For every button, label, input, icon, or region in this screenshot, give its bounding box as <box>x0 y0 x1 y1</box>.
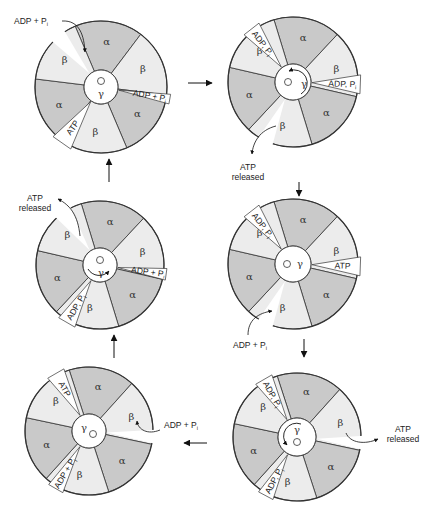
alpha-label: α <box>103 36 110 47</box>
alpha-label: α <box>119 455 126 466</box>
beta-label: β <box>337 417 343 428</box>
beta-label: β <box>53 395 59 406</box>
site-atp-label: ATP <box>334 260 351 271</box>
gamma-label: γ <box>297 258 303 269</box>
gamma-hub <box>72 414 106 448</box>
alpha-label: α <box>323 107 330 118</box>
gamma-hub <box>275 246 311 282</box>
adp-pi-entering-label: ADP + Pi <box>164 420 198 431</box>
alpha-label: α <box>300 32 307 43</box>
gamma-label: γ <box>294 424 300 435</box>
panel-2: αβαβαβADP, PiADP, PiγATPreleased <box>228 17 361 182</box>
alpha-label: α <box>250 445 257 456</box>
alpha-label: α <box>303 386 310 397</box>
gamma-shaft-icon <box>294 439 301 446</box>
alpha-label: α <box>323 289 330 300</box>
gamma-label: γ <box>81 422 87 433</box>
beta-label: β <box>87 302 93 313</box>
panel-4: αβαβαβADP, PiATPγADP + Pi <box>228 199 361 351</box>
gamma-label: γ <box>98 88 104 99</box>
adp-pi-entering-label: ADP + Pi <box>14 16 48 27</box>
alpha-label: α <box>56 99 63 110</box>
alpha-label: α <box>107 216 114 227</box>
gamma-shaft-icon <box>97 257 104 264</box>
atp-released-label: ATPreleased <box>232 162 265 182</box>
alpha-label: α <box>54 272 61 283</box>
beta-label: β <box>62 54 68 65</box>
alpha-label: α <box>327 461 334 472</box>
beta-label: β <box>77 469 83 480</box>
beta-label: β <box>140 63 146 74</box>
beta-label: β <box>280 302 286 313</box>
beta-label: β <box>128 411 134 422</box>
alpha-label: α <box>95 381 102 392</box>
gamma-shaft-icon <box>98 78 105 85</box>
gamma-shaft-icon <box>285 79 292 86</box>
beta-label: β <box>140 246 146 257</box>
beta-label: β <box>334 245 340 256</box>
panel-1: αβαβαβADP + PiATPγADP + Pi <box>14 16 171 153</box>
alpha-label: α <box>246 271 253 282</box>
alpha-label: α <box>134 108 141 119</box>
beta-label: β <box>93 126 99 137</box>
panel-3: αβαβαβADP + PiADP, PiγATPreleased <box>19 193 167 329</box>
alpha-label: α <box>129 289 136 300</box>
gamma-label: γ <box>98 267 104 278</box>
alpha-label: α <box>246 89 253 100</box>
beta-label: β <box>280 120 286 131</box>
atp-released-label: ATPreleased <box>19 193 52 213</box>
beta-label: β <box>285 476 291 487</box>
beta-label: β <box>334 63 340 74</box>
gamma-shaft-icon <box>284 261 291 268</box>
beta-label: β <box>260 401 266 412</box>
panel-6: αβαβαβADP, PiADP, PiγATPreleased <box>233 373 420 501</box>
adp-pi-entering-label: ADP + Pi <box>233 340 267 351</box>
atp-synthase-cycle-diagram: αβαβαβADP + PiATPγADP + PiαβαβαβADP, PiA… <box>0 0 436 515</box>
alpha-label: α <box>300 214 307 225</box>
panel-5: αβαβαβATPADP + PiγADP + Pi <box>25 367 198 495</box>
gamma-shaft-icon <box>90 431 97 438</box>
alpha-label: α <box>43 439 50 450</box>
atp-released-label: ATPreleased <box>387 424 420 444</box>
